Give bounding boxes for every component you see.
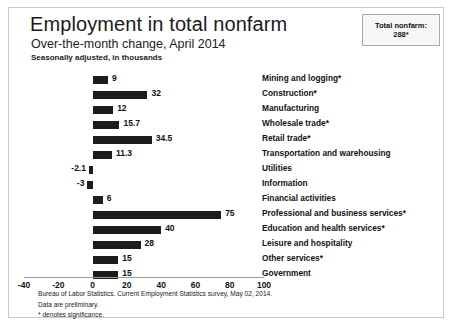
chart-bar (93, 106, 114, 114)
category-label: Manufacturing (262, 103, 319, 113)
bar-value-label: 6 (107, 193, 112, 203)
chart-row: 15Other services* (0, 252, 456, 267)
chart-row: 6Financial activities (0, 192, 456, 207)
category-label: Mining and logging* (262, 73, 341, 83)
category-label: Professional and business services* (262, 208, 406, 218)
chart-row: 12Manufacturing (0, 102, 456, 117)
chart-bar (89, 166, 93, 174)
bar-value-label: 15 (122, 253, 131, 263)
category-label: Information (262, 178, 308, 188)
chart-row: 11.3Transportation and warehousing (0, 147, 456, 162)
chart-bar (93, 121, 120, 129)
chart-bar (93, 226, 162, 234)
bar-value-label: -3 (67, 178, 84, 188)
category-label: Other services* (262, 253, 323, 263)
chart-row: 15.7Wholesale trade* (0, 117, 456, 132)
footnotes: Bureau of Labor Statistics. Current Empl… (38, 289, 272, 321)
chart-row: -3Information (0, 177, 456, 192)
bar-value-label: -2.1 (69, 163, 86, 173)
footnote-significance: * denotes significance. (38, 310, 272, 321)
chart-bar (93, 241, 141, 249)
chart-row: 40Education and health services* (0, 222, 456, 237)
category-label: Government (262, 268, 311, 278)
bar-value-label: 40 (165, 223, 174, 233)
chart-bar (87, 181, 92, 189)
footnote-preliminary: Data are preliminary. (38, 300, 272, 311)
x-axis-tick-label: -40 (9, 280, 39, 290)
chart-bar (93, 196, 103, 204)
bar-value-label: 11.3 (116, 148, 132, 158)
chart-bar (93, 211, 222, 219)
category-label: Education and health services* (262, 223, 385, 233)
category-label: Financial activities (262, 193, 336, 203)
x-axis-line (24, 277, 264, 278)
category-label: Retail trade* (262, 133, 310, 143)
bar-value-label: 15.7 (123, 118, 140, 128)
chart-row: 9Mining and logging* (0, 72, 456, 87)
bar-value-label: 28 (145, 238, 154, 248)
bar-value-label: 12 (117, 103, 126, 113)
chart-bar (93, 76, 108, 84)
footnote-source: Bureau of Labor Statistics. Current Empl… (38, 289, 272, 300)
chart-row: 34.5Retail trade* (0, 132, 456, 147)
chart-bar (93, 256, 119, 264)
bar-value-label: 75 (225, 208, 234, 218)
category-label: Utilities (262, 163, 292, 173)
category-label: Wholesale trade* (262, 118, 329, 128)
chart-bar (93, 91, 148, 99)
category-label: Construction* (262, 88, 317, 98)
chart-row: 32Construction* (0, 87, 456, 102)
category-label: Transportation and warehousing (262, 148, 391, 158)
bar-chart-plot: 9Mining and logging*32Construction*12Man… (0, 0, 456, 333)
bar-value-label: 32 (151, 88, 160, 98)
chart-row: 75Professional and business services* (0, 207, 456, 222)
chart-row: 28Leisure and hospitality (0, 237, 456, 252)
bar-value-label: 9 (112, 73, 117, 83)
category-label: Leisure and hospitality (262, 238, 352, 248)
chart-row: -2.1Utilities (0, 162, 456, 177)
chart-bar (93, 151, 112, 159)
chart-bar (93, 136, 152, 144)
bar-value-label: 34.5 (156, 133, 173, 143)
